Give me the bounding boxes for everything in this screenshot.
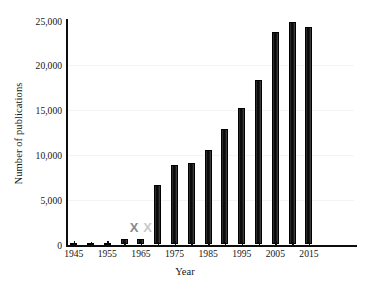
x-tick-mark: [175, 241, 176, 245]
bar-1985: [205, 150, 212, 244]
bar-1975: [171, 165, 178, 245]
annotation-x-mark-1: X: [130, 221, 139, 234]
x-tick-mark-minor: [91, 242, 92, 245]
x-tick-mark: [74, 241, 75, 245]
x-tick-label: 2005: [266, 248, 285, 259]
y-tick-label: 10,000: [2, 149, 62, 160]
bar-1995: [238, 108, 245, 244]
x-tick-mark: [242, 241, 243, 245]
x-tick-mark-minor: [259, 242, 260, 245]
y-tick-label: 5,000: [2, 194, 62, 205]
x-tick-mark-minor: [191, 242, 192, 245]
bar-2005: [272, 32, 279, 244]
bar-1970: [154, 185, 161, 244]
x-tick-mark-minor: [124, 242, 125, 245]
y-tick-label: 15,000: [2, 105, 62, 116]
x-tick-mark-minor: [292, 242, 293, 245]
y-tick-label: 0: [2, 239, 62, 250]
x-tick-label: 1945: [64, 248, 83, 259]
y-axis-tick-labels: 05,00010,00015,00020,00025,000: [0, 0, 62, 289]
x-tick-mark: [275, 241, 276, 245]
x-tick-mark: [309, 241, 310, 245]
bar-2000: [255, 80, 262, 245]
bar-2010: [289, 22, 296, 244]
x-tick-label: 1955: [98, 248, 117, 259]
y-tick-label: 25,000: [2, 15, 62, 26]
x-tick-label: 1975: [165, 248, 184, 259]
x-tick-mark: [208, 241, 209, 245]
bar-1990: [221, 129, 228, 245]
bar-2015: [305, 27, 312, 245]
publications-bar-chart-figure: Number of publications 05,00010,00015,00…: [0, 0, 370, 289]
x-axis-title: Year: [0, 266, 370, 277]
x-tick-mark: [141, 241, 142, 245]
x-tick-mark-minor: [225, 242, 226, 245]
x-tick-label: 1995: [232, 248, 251, 259]
y-axis-line: [66, 19, 68, 246]
x-tick-label: 1965: [131, 248, 150, 259]
annotation-x-mark-2: X: [143, 221, 152, 234]
x-tick-mark-minor: [158, 242, 159, 245]
bar-1980: [188, 163, 195, 245]
x-tick-mark: [107, 241, 108, 245]
x-tick-label: 1985: [199, 248, 218, 259]
y-tick-label: 20,000: [2, 60, 62, 71]
x-tick-label: 2015: [299, 248, 318, 259]
